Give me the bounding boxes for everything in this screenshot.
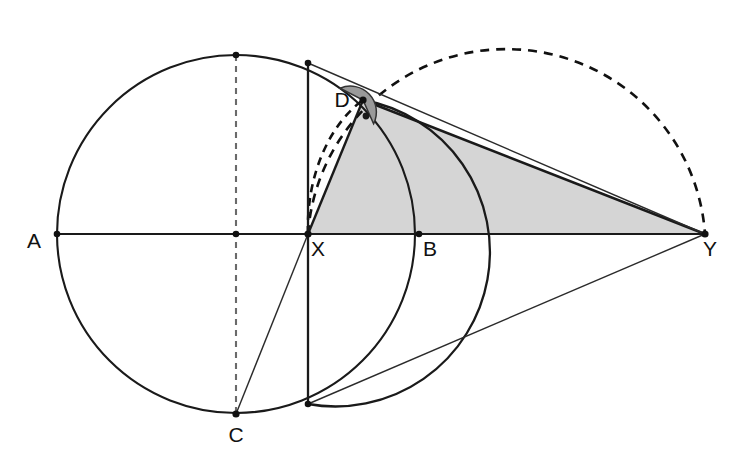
point-dot-c bbox=[232, 410, 239, 417]
label-b: B bbox=[423, 237, 437, 260]
line-c-to-p bbox=[236, 234, 308, 414]
geometry-figure: A X B Y C D bbox=[0, 0, 744, 464]
label-x: X bbox=[311, 237, 325, 260]
label-a: A bbox=[27, 229, 41, 252]
label-y: Y bbox=[703, 237, 717, 260]
point-dot-b bbox=[416, 231, 423, 238]
point-dot-p bbox=[305, 60, 312, 67]
label-d: D bbox=[334, 88, 349, 111]
point-dot-t bbox=[233, 52, 240, 59]
point-dot-d bbox=[359, 96, 366, 103]
shaded-triangle-xdy bbox=[308, 100, 705, 234]
point-dot-o bbox=[233, 231, 240, 238]
point-dot-q bbox=[305, 401, 312, 408]
label-c: C bbox=[228, 423, 243, 446]
right-angle-dot-marker bbox=[363, 113, 370, 120]
point-dot-a bbox=[54, 231, 61, 238]
segment-q-to-y bbox=[308, 234, 705, 404]
geometry-canvas: A X B Y C D bbox=[0, 0, 744, 464]
